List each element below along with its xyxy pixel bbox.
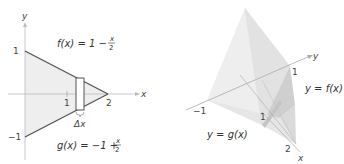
g-equation-denominator: 2 <box>115 146 119 154</box>
x-tick-label-1: 1 <box>64 98 70 108</box>
representative-rectangle <box>76 78 84 110</box>
x-tick-3d-label-1: 1 <box>260 112 266 122</box>
y-tick-label-neg1: −1 <box>8 132 21 142</box>
right-panel: y x 1 −1 1 2 y = f(x) y = g(x) <box>186 8 343 163</box>
g-curve-label: y = g(x) <box>206 129 248 140</box>
g-equation-numerator: x <box>115 137 121 145</box>
y-axis-3d-label: y <box>312 51 319 61</box>
y-tick-label-1: 1 <box>13 46 19 56</box>
x-tick-3d-label-2: 2 <box>285 144 291 154</box>
g-equation: g(x) = −1 + x 2 <box>57 137 121 154</box>
x-tick-label-2: 2 <box>106 98 112 108</box>
delta-x-brace <box>76 112 84 117</box>
g-equation-lhs: g(x) = −1 + <box>57 140 118 151</box>
f-curve-label: y = f(x) <box>304 83 343 94</box>
x-axis-label: x <box>140 89 147 99</box>
y-tick-3d-label-1: 1 <box>292 67 298 77</box>
x-axis-arrow-icon <box>135 92 140 96</box>
figure-canvas: y x 1 −1 1 2 Δx f(x) = 1 − x 2 g(x) = −1… <box>0 0 344 164</box>
f-equation-lhs: f(x) = 1 − <box>57 38 107 49</box>
f-equation: f(x) = 1 − x 2 <box>57 35 115 52</box>
y-tick-3d-label-neg1: −1 <box>193 106 206 116</box>
y-axis-label: y <box>21 11 28 21</box>
delta-x-label: Δx <box>73 119 86 129</box>
f-equation-denominator: 2 <box>109 44 113 52</box>
x-axis-3d-label: x <box>297 153 304 163</box>
left-panel: y x 1 −1 1 2 Δx f(x) = 1 − x 2 g(x) = −1… <box>8 11 147 160</box>
f-equation-numerator: x <box>109 35 115 43</box>
y-axis-arrow-icon <box>23 22 27 27</box>
